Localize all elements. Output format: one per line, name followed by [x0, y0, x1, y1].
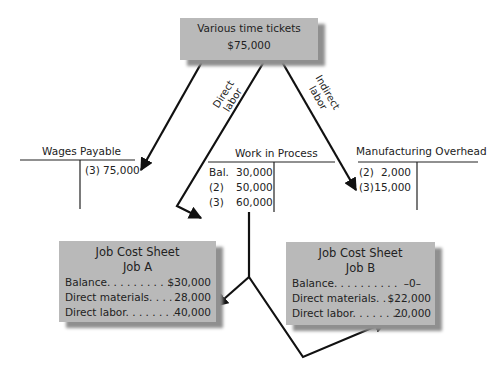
job-b-row-amount: 20,000 — [394, 307, 431, 319]
job-a-row-label: Direct materials. . . . . — [65, 291, 179, 303]
wip-title: Work in Process — [235, 147, 318, 159]
moh-amount: 2,000 — [381, 166, 411, 178]
wip-amount: 30,000 — [236, 166, 273, 178]
job-a-title: Job Cost Sheet — [59, 245, 216, 259]
time-tickets-amount: $75,000 — [180, 39, 318, 51]
job-b-row-label: Direct materials. . . . — [292, 292, 399, 304]
job-cost-sheet-b: Job Cost Sheet Job B Balance. . . . . . … — [286, 242, 435, 325]
wip-amount: 50,000 — [236, 181, 273, 193]
wages-payable-amount: 75,000 — [103, 164, 140, 176]
job-b-subtitle: Job B — [286, 261, 435, 275]
job-b-row-amount: –0– — [404, 277, 421, 289]
wip-ref: Bal. — [209, 166, 229, 178]
wip-ref: (2) — [209, 181, 224, 193]
job-a-row-amount: 40,000 — [174, 306, 211, 318]
wip-ref: (3) — [209, 196, 224, 208]
job-b-row-label: Direct labor. . . . . . . . — [292, 307, 403, 319]
time-tickets-box: Various time tickets $75,000 — [180, 18, 318, 60]
job-a-row-label: Balance. . . . . . . . . . . — [65, 276, 177, 288]
arrow-to-job-a — [216, 277, 249, 306]
moh-amount: 15,000 — [374, 181, 411, 193]
job-a-row-amount: $30,000 — [168, 276, 211, 288]
moh-title: Manufacturing Overhead — [356, 145, 487, 157]
job-cost-sheet-a: Job Cost Sheet Job A Balance. . . . . . … — [59, 241, 216, 322]
job-a-row-label: Direct labor. . . . . . . . — [65, 306, 176, 318]
job-b-row-amount: $22,000 — [388, 292, 431, 304]
job-b-row-label: Balance. . . . . . . . . . — [292, 277, 397, 289]
wip-amount: 60,000 — [236, 196, 273, 208]
wages-payable-ref: (3) — [85, 164, 100, 176]
wages-payable-title: Wages Payable — [42, 145, 121, 157]
job-b-title: Job Cost Sheet — [286, 246, 435, 260]
moh-ref: (3) — [359, 181, 374, 193]
arrow-to-wages-payable — [141, 60, 203, 170]
job-a-row-amount: 28,000 — [174, 291, 211, 303]
time-tickets-title: Various time tickets — [180, 22, 318, 34]
moh-ref: (2) — [359, 166, 374, 178]
job-a-subtitle: Job A — [59, 260, 216, 274]
